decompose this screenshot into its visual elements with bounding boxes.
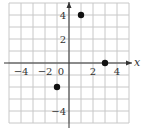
data-point — [102, 60, 108, 66]
x-axis-label: x — [134, 56, 141, 69]
axes — [4, 2, 132, 128]
x-tick-label: 2 — [90, 66, 96, 77]
y-tick-label: 4 — [60, 10, 66, 21]
x-tick-label: −2 — [38, 66, 53, 77]
data-point — [78, 12, 84, 18]
x-tick-label: 0 — [58, 66, 64, 77]
coordinate-plane: x −4−2024 42−4 — [0, 0, 141, 132]
x-tick-label: −4 — [14, 66, 29, 77]
y-tick-label: −4 — [51, 106, 66, 117]
y-tick-label: 2 — [60, 34, 66, 45]
x-tick-label: 4 — [114, 66, 120, 77]
data-point — [54, 84, 60, 90]
